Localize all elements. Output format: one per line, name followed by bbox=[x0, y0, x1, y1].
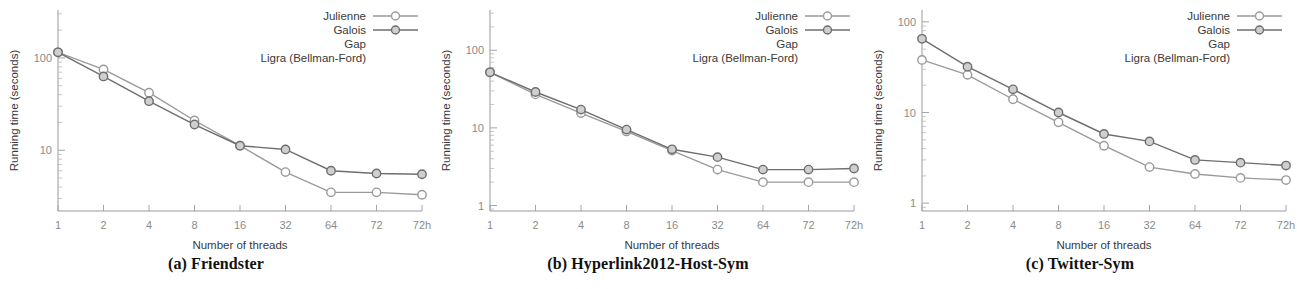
x-tick-label: 2 bbox=[532, 219, 538, 231]
data-point-marker bbox=[963, 71, 971, 79]
data-point-marker bbox=[1054, 108, 1062, 116]
x-tick-label: 2 bbox=[100, 219, 106, 231]
data-point-marker bbox=[577, 105, 585, 113]
data-point-marker bbox=[372, 169, 380, 177]
data-point-marker bbox=[372, 188, 380, 196]
legend-label-gap: Gap bbox=[1208, 38, 1230, 50]
data-point-marker bbox=[668, 145, 676, 153]
x-tick-label: 8 bbox=[623, 219, 629, 231]
chart-panel-3: 10010112481632647272hNumber of threadsRu… bbox=[864, 0, 1296, 289]
x-tick-label: 64 bbox=[1189, 219, 1201, 231]
legend-marker-julienne bbox=[805, 12, 850, 20]
legend-marker-galois bbox=[373, 26, 418, 34]
legend-label-galois: Galois bbox=[333, 24, 366, 36]
x-tick-label: 32 bbox=[279, 219, 291, 231]
legend-label-julienne: Julienne bbox=[323, 10, 366, 22]
legend-marker-julienne bbox=[373, 12, 418, 20]
panel-caption-2: (b) Hyperlink2012-Host-Sym bbox=[432, 255, 864, 273]
x-tick-label: 32 bbox=[1143, 219, 1155, 231]
data-point-marker bbox=[713, 165, 721, 173]
x-tick-label: 64 bbox=[757, 219, 769, 231]
x-tick-label: 72h bbox=[845, 219, 863, 231]
data-point-marker bbox=[622, 125, 630, 133]
legend-label-ligra-bellman-ford: Ligra (Bellman-Ford) bbox=[1125, 52, 1231, 64]
data-point-marker bbox=[236, 142, 244, 150]
data-point-marker bbox=[327, 167, 335, 175]
figure-row: 1001012481632647272hNumber of threadsRun… bbox=[0, 0, 1297, 289]
data-point-marker bbox=[918, 56, 926, 64]
data-point-marker bbox=[1100, 142, 1108, 150]
y-tick-label: 10 bbox=[472, 122, 484, 134]
data-point-marker bbox=[99, 72, 107, 80]
legend-label-julienne: Julienne bbox=[755, 10, 798, 22]
data-point-marker bbox=[531, 88, 539, 96]
chart-panel-2: 10010112481632647272hNumber of threadsRu… bbox=[432, 0, 864, 289]
chart-panel-1: 1001012481632647272hNumber of threadsRun… bbox=[0, 0, 432, 289]
y-axis-title: Running time (seconds) bbox=[8, 50, 20, 172]
data-point-marker bbox=[327, 188, 335, 196]
chart-plot-area: 1001012481632647272hNumber of threadsRun… bbox=[0, 0, 432, 252]
data-point-marker bbox=[918, 35, 926, 43]
data-point-marker bbox=[963, 62, 971, 70]
data-point-marker bbox=[486, 68, 494, 76]
data-point-marker bbox=[418, 191, 426, 199]
legend-marker-julienne bbox=[1237, 12, 1282, 20]
x-tick-label: 1 bbox=[487, 219, 493, 231]
data-point-marker bbox=[54, 48, 62, 56]
data-point-marker bbox=[1145, 137, 1153, 145]
legend-label-ligra-bellman-ford: Ligra (Bellman-Ford) bbox=[261, 52, 367, 64]
data-point-marker bbox=[1191, 170, 1199, 178]
data-point-marker bbox=[1054, 118, 1062, 126]
x-tick-label: 72h bbox=[1277, 219, 1295, 231]
x-tick-label: 16 bbox=[234, 219, 246, 231]
x-tick-label: 72 bbox=[1234, 219, 1246, 231]
x-tick-label: 8 bbox=[1055, 219, 1061, 231]
legend-label-gap: Gap bbox=[344, 38, 366, 50]
data-point-marker bbox=[1009, 85, 1017, 93]
x-tick-label: 8 bbox=[191, 219, 197, 231]
y-axis-title: Running time (seconds) bbox=[440, 50, 452, 172]
legend-label-galois: Galois bbox=[1197, 24, 1230, 36]
data-point-marker bbox=[1145, 163, 1153, 171]
x-tick-label: 4 bbox=[578, 219, 584, 231]
line-chart-svg: 10010112481632647272hNumber of threadsRu… bbox=[432, 0, 864, 252]
data-point-marker bbox=[1191, 156, 1199, 164]
chart-plot-area: 10010112481632647272hNumber of threadsRu… bbox=[864, 0, 1296, 252]
y-tick-label: 10 bbox=[904, 107, 916, 119]
data-point-marker bbox=[1236, 174, 1244, 182]
x-tick-label: 16 bbox=[1098, 219, 1110, 231]
data-point-marker bbox=[281, 168, 289, 176]
data-point-marker bbox=[804, 178, 812, 186]
legend-label-galois: Galois bbox=[765, 24, 798, 36]
y-tick-label: 1 bbox=[910, 197, 916, 209]
data-point-marker bbox=[804, 165, 812, 173]
data-point-marker bbox=[1282, 176, 1290, 184]
legend-marker-galois bbox=[805, 26, 850, 34]
data-point-marker bbox=[759, 178, 767, 186]
x-axis-title: Number of threads bbox=[1056, 239, 1151, 251]
data-point-marker bbox=[1236, 158, 1244, 166]
data-point-marker bbox=[281, 145, 289, 153]
x-tick-label: 64 bbox=[325, 219, 337, 231]
data-point-marker bbox=[759, 165, 767, 173]
x-tick-label: 32 bbox=[711, 219, 723, 231]
x-tick-label: 1 bbox=[919, 219, 925, 231]
x-tick-label: 72 bbox=[802, 219, 814, 231]
data-point-marker bbox=[1009, 95, 1017, 103]
line-chart-svg: 10010112481632647272hNumber of threadsRu… bbox=[864, 0, 1296, 252]
panel-caption-1: (a) Friendster bbox=[0, 255, 432, 273]
y-tick-label: 100 bbox=[898, 16, 916, 28]
x-axis-title: Number of threads bbox=[192, 239, 287, 251]
series-line-galois bbox=[58, 52, 422, 174]
series-line-julienne bbox=[490, 72, 854, 182]
x-tick-label: 1 bbox=[55, 219, 61, 231]
legend-label-julienne: Julienne bbox=[1187, 10, 1230, 22]
legend-label-gap: Gap bbox=[776, 38, 798, 50]
x-tick-label: 4 bbox=[1010, 219, 1016, 231]
data-point-marker bbox=[713, 153, 721, 161]
chart-plot-area: 10010112481632647272hNumber of threadsRu… bbox=[432, 0, 864, 252]
x-tick-label: 72h bbox=[413, 219, 431, 231]
data-point-marker bbox=[418, 170, 426, 178]
data-point-marker bbox=[1282, 161, 1290, 169]
y-axis-title: Running time (seconds) bbox=[872, 50, 884, 172]
